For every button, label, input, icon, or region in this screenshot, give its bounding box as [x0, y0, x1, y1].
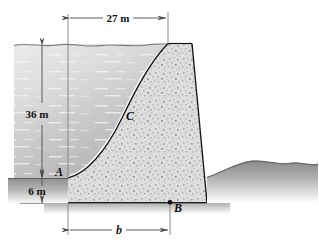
point-b-marker: [168, 200, 173, 205]
water-depth-label: 36 m: [26, 108, 49, 120]
point-b-label: B: [173, 201, 182, 215]
dam-diagram-figure: 27 m 36 m 6 m b A B C: [0, 0, 319, 249]
top-width-label: 27 m: [107, 12, 130, 24]
base-width-label: b: [116, 223, 122, 237]
dam-figure-canvas: 27 m 36 m 6 m b A B C: [0, 0, 319, 249]
point-c-label: C: [126, 109, 135, 123]
base-ground-shadow: [44, 203, 230, 214]
base-offset-label: 6 m: [28, 185, 45, 197]
point-a-label: A: [54, 165, 63, 179]
